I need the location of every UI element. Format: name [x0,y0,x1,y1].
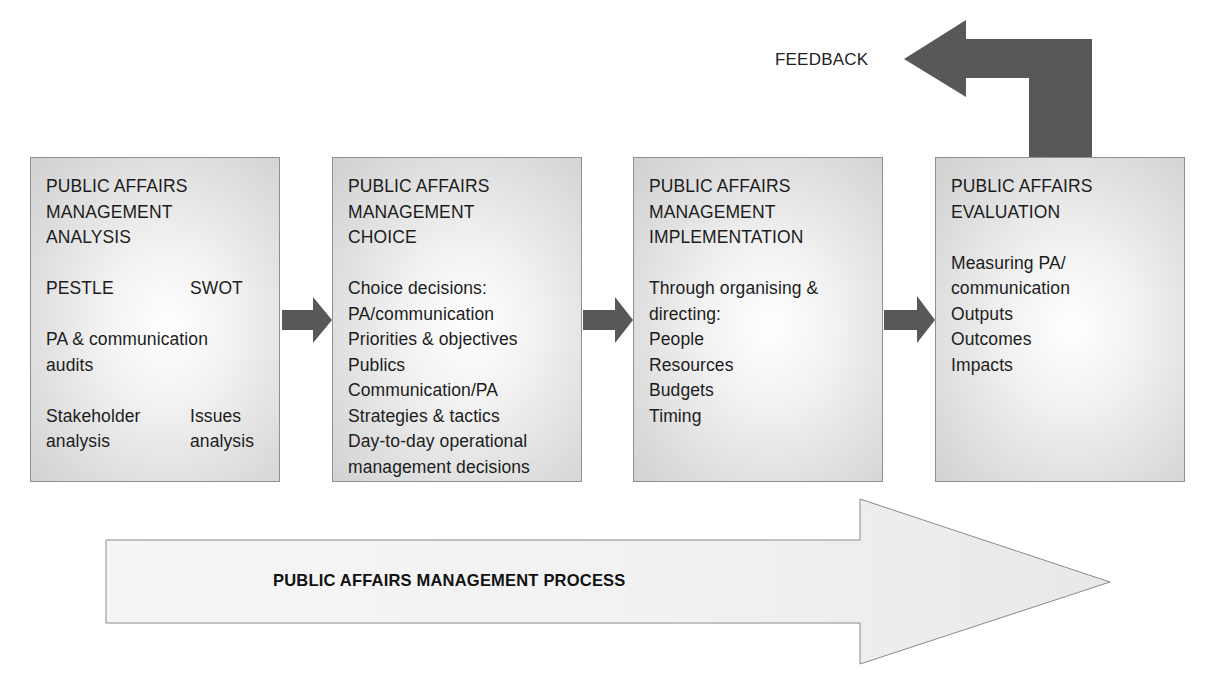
spacer [46,251,269,277]
stage-body-line: Measuring PA/ [951,251,1174,277]
stage-body-line: PA/communication [348,302,571,328]
stage-body-line: PA & communication [46,327,269,353]
feedback-label: FEEDBACK [775,50,868,70]
stage-title-line: ANALYSIS [46,225,269,251]
swot-label: SWOT [190,276,243,302]
stage-body-line: audits [46,353,269,379]
stage-title-line: CHOICE [348,225,571,251]
spacer [649,251,872,277]
stage-title-line: MANAGEMENT [348,200,571,226]
stage-body-line: Resources [649,353,872,379]
feedback-arrow-icon [904,20,1092,157]
stakeholder-label: Stakeholder [46,404,190,430]
process-arrow-label: PUBLIC AFFAIRS MANAGEMENT PROCESS [273,571,626,590]
connector-arrow-icon-3 [884,296,935,343]
stage-body-line: People [649,327,872,353]
stage-body-line: Timing [649,404,872,430]
issues-analysis-label: analysis [190,429,254,455]
connector-arrow-icon-1 [282,297,332,343]
stage-title-line: MANAGEMENT [649,200,872,226]
stage-body-line: Impacts [951,353,1174,379]
stage-title-line: IMPLEMENTATION [649,225,872,251]
stage-title-line: EVALUATION [951,200,1174,226]
stage-title-line: PUBLIC AFFAIRS [649,174,872,200]
spacer [951,225,1174,251]
stage-box-choice: PUBLIC AFFAIRS MANAGEMENT CHOICE Choice … [332,157,582,482]
spacer [46,302,269,328]
issues-label: Issues [190,404,241,430]
stage-box-implementation: PUBLIC AFFAIRS MANAGEMENT IMPLEMENTATION… [633,157,883,482]
stage-title-line: PUBLIC AFFAIRS [348,174,571,200]
stage-body-line: Budgets [649,378,872,404]
analysis-row-stakeholder-issues: Stakeholder Issues [46,404,269,430]
stage-body-line: Strategies & tactics [348,404,571,430]
stage-box-evaluation: PUBLIC AFFAIRS EVALUATION Measuring PA/ … [935,157,1185,482]
spacer [348,251,571,277]
stage-body-line: management decisions [348,455,571,481]
stakeholder-analysis-label: analysis [46,429,190,455]
public-affairs-process-diagram: FEEDBACK PUBLIC AFFAIRS MANAGEMENT ANALY… [0,0,1210,689]
pestle-label: PESTLE [46,276,190,302]
stage-body-line: Day-to-day operational [348,429,571,455]
stage-body-line: Priorities & objectives [348,327,571,353]
stage-title-line: PUBLIC AFFAIRS [951,174,1174,200]
stage-body-line: Communication/PA [348,378,571,404]
stage-body-line: Choice decisions: [348,276,571,302]
stage-body-line: Publics [348,353,571,379]
stage-title-line: PUBLIC AFFAIRS [46,174,269,200]
stage-box-analysis: PUBLIC AFFAIRS MANAGEMENT ANALYSIS PESTL… [30,157,280,482]
stage-body-line: communication [951,276,1174,302]
spacer [46,378,269,404]
stage-body-line: directing: [649,302,872,328]
stage-body-line: Through organising & [649,276,872,302]
stage-body-line: Outcomes [951,327,1174,353]
stage-title-line: MANAGEMENT [46,200,269,226]
stage-body-line: Outputs [951,302,1174,328]
connector-arrow-icon-2 [583,297,633,343]
analysis-row-stakeholder-issues-2: analysis analysis [46,429,269,455]
analysis-row-pestle-swot: PESTLE SWOT [46,276,269,302]
